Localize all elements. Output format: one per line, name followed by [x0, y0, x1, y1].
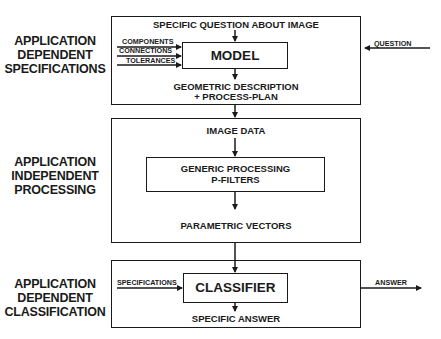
stage-label-line: INDEPENDENT — [0, 169, 110, 183]
stage-label-line: PROCESSING — [0, 183, 110, 197]
model-label: MODEL — [182, 48, 288, 63]
stage-label-line: DEPENDENT — [0, 291, 110, 305]
p-filters-text: P-FILTERS — [146, 174, 325, 185]
specific-answer-text: SPECIFIC ANSWER — [111, 313, 361, 324]
stage-label-specifications: APPLICATION DEPENDENT SPECIFICATIONS — [0, 34, 110, 76]
process-plan-text: + PROCESS-PLAN — [111, 91, 361, 102]
stage-label-line: APPLICATION — [0, 277, 110, 291]
stage-label-line: CLASSIFICATION — [0, 305, 110, 319]
parametric-vectors-text: PARAMETRIC VECTORS — [111, 220, 361, 231]
input-connections: CONNECTIONS — [119, 47, 172, 55]
generic-processing-text: GENERIC PROCESSING — [146, 163, 325, 174]
stage-label-line: SPECIFICATIONS — [0, 62, 110, 76]
specific-question-text: SPECIFIC QUESTION ABOUT IMAGE — [111, 19, 361, 30]
stage-label-line: DEPENDENT — [0, 48, 110, 62]
answer-output-label: ANSWER — [375, 279, 407, 287]
stage-label-line: APPLICATION — [0, 34, 110, 48]
input-components: COMPONENTS — [122, 38, 174, 46]
specifications-input-label: SPECIFICATIONS — [117, 279, 177, 287]
image-data-text: IMAGE DATA — [111, 125, 361, 136]
input-tolerances: TOLERANCES — [126, 57, 175, 65]
stage-label-processing: APPLICATION INDEPENDENT PROCESSING — [0, 155, 110, 197]
stage-label-line: APPLICATION — [0, 155, 110, 169]
question-input-label: QUESTION — [374, 40, 412, 48]
stage-label-classification: APPLICATION DEPENDENT CLASSIFICATION — [0, 277, 110, 319]
classifier-label: CLASSIFIER — [183, 280, 288, 295]
